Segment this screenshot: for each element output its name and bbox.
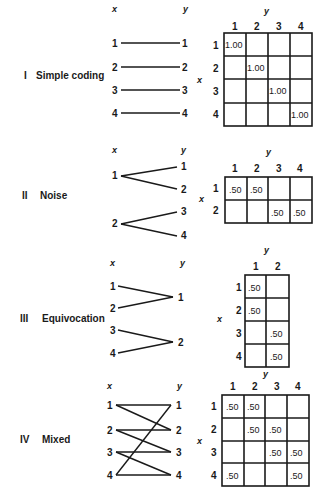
x-node: 3 [110,325,116,336]
x-axis-label: x [106,381,113,391]
matrix-cell: .50 [269,425,282,435]
section-numeral: I [24,70,27,81]
x-node: 1 [107,400,113,411]
y-axis-label: y [179,258,186,268]
edge-4-2 [118,342,173,353]
matrix-cell: .50 [226,471,239,481]
matrix-col-header: 3 [274,381,280,392]
matrix-col-header: 3 [276,163,282,174]
matrix-row-header: 3 [213,86,219,97]
matrix-row-header: 3 [236,328,242,339]
matrix-row-header: 1 [213,40,219,51]
matrix-col-header: 1 [230,381,236,392]
x-node: 3 [112,85,118,96]
x-node: 3 [107,447,113,458]
x-node: 4 [112,108,118,119]
y-node: 1 [176,400,182,411]
matrix-col-header: 1 [232,21,238,32]
matrix-row-header: 1 [211,401,217,412]
y-node: 3 [182,85,188,96]
mapping-graph: x y 1 2 3 4 1 2 3 4 [106,381,183,481]
y-node: 1 [182,38,188,49]
matrix-row-header: 4 [213,109,219,120]
matrix-col-header: 3 [276,21,282,32]
section-title: Equivocation [42,313,105,324]
matrix-col-header: 2 [275,261,281,272]
probability-matrix: y x 1 2 1 2 3 4 .50 .50 .50 .50 [216,245,289,367]
matrix-cell: 1.00 [225,40,243,50]
matrix-col-label: y [265,147,272,157]
edge-2-1 [118,297,173,308]
matrix-cell: .50 [247,402,260,412]
matrix-col-label: y [263,6,270,16]
matrix-row-header: 4 [211,470,217,481]
y-node: 1 [178,292,184,303]
x-node: 2 [112,218,118,229]
section-simple-coding: I Simple coding x y 1 2 3 4 1 2 3 4 y x … [24,4,312,126]
section-title: Noise [40,190,68,201]
channel-diagram: I Simple coding x y 1 2 3 4 1 2 3 4 y x … [0,0,326,504]
x-node: 2 [112,62,118,73]
x-axis-label: x [111,4,118,14]
x-node: 4 [110,348,116,359]
matrix-row-label: x [196,436,203,446]
matrix-col-header: 1 [232,163,238,174]
y-node: 2 [176,425,182,436]
x-node: 1 [112,38,118,49]
matrix-cell: .50 [247,425,260,435]
matrix-col-header: 2 [254,21,260,32]
matrix-row-label: x [196,75,203,85]
probability-matrix: y x 1 2 3 4 1 2 .50 .50 .50 .50 [198,147,312,223]
matrix-cell: 1.00 [291,110,309,120]
matrix-col-header: 2 [252,381,258,392]
y-node: 4 [176,470,182,481]
y-node: 3 [181,206,187,217]
matrix-cell: .50 [229,185,242,195]
y-node: 2 [181,184,187,195]
probability-matrix: y x 1 2 3 4 1 2 3 4 .50 .50 .50 .50 .50 … [196,369,309,486]
y-node: 2 [182,62,188,73]
edge-1-1 [118,286,173,297]
x-node: 4 [107,470,113,481]
y-node: 4 [182,108,188,119]
matrix-col-header: 2 [254,163,260,174]
edge-1-2 [121,176,177,189]
matrix-col-header: 4 [297,163,303,174]
y-axis-label: y [176,381,183,391]
matrix-col-label: y [263,245,270,255]
matrix-cell: .50 [270,329,283,339]
matrix-cell: .50 [226,402,239,412]
edge-4-1 [116,405,171,475]
matrix-cell: .50 [293,208,306,218]
y-node: 3 [176,447,182,458]
matrix-row-label: x [198,194,205,204]
edge-3-2 [118,330,173,342]
mapping-graph: x y 1 2 3 4 1 2 [109,258,186,359]
y-node: 4 [181,230,187,241]
x-node: 2 [110,303,116,314]
section-equivocation: III Equivocation x y 1 2 3 4 1 2 y x 1 2… [20,245,289,367]
y-axis-label: y [180,145,187,155]
matrix-col-header: 4 [295,381,301,392]
x-axis-label: x [109,258,116,268]
matrix-col-header: 4 [298,21,304,32]
matrix-cell: 1.00 [269,86,287,96]
matrix-row-header: 2 [236,305,242,316]
matrix-cell: .50 [248,306,261,316]
matrix-cell: 1.00 [247,63,265,73]
section-numeral: III [20,313,29,324]
matrix-cell: .50 [290,471,303,481]
matrix-row-header: 2 [211,424,217,435]
edge-2-3 [121,212,177,224]
matrix-col-label: y [262,369,269,379]
probability-matrix: y x 1 2 3 4 1 2 3 4 1.00 1.00 1.00 1.00 [196,6,312,126]
mapping-graph: x y 1 2 3 4 1 2 3 4 [111,4,189,119]
section-mixed: IV Mixed x y 1 2 3 4 1 2 3 4 y x 1 [20,369,309,486]
matrix-row-header: 1 [213,183,219,194]
section-noise: II Noise x y 1 2 1 2 3 4 y x 1 2 3 4 1 2 [22,145,312,241]
matrix-row-header: 3 [211,447,217,458]
section-title: Mixed [42,434,70,445]
mapping-graph: x y 1 2 1 2 3 4 [111,145,187,241]
y-node: 2 [178,337,184,348]
x-node: 2 [107,425,113,436]
